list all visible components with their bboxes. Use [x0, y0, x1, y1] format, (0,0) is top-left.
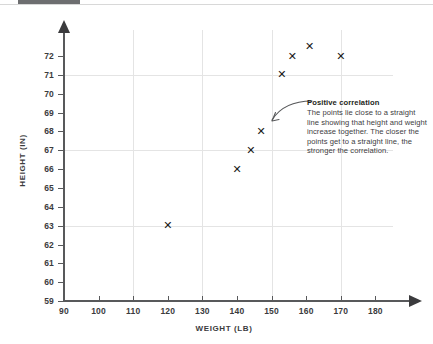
- x-axis-tick: [133, 296, 134, 302]
- y-axis-tick-label: 59: [14, 296, 54, 306]
- x-axis-arrow-icon: [409, 295, 422, 307]
- y-axis-tick: [58, 150, 64, 151]
- y-axis-tick: [58, 75, 64, 76]
- x-axis-tick: [375, 296, 376, 302]
- y-axis-tick-label: 61: [14, 258, 54, 268]
- x-axis-tick: [168, 296, 169, 302]
- y-axis-tick-label: 63: [14, 221, 54, 231]
- y-axis-tick-label: 62: [14, 240, 54, 250]
- y-axis-tick-label: 64: [14, 202, 54, 212]
- y-axis-tick: [58, 113, 64, 114]
- data-point-marker: ✕: [162, 220, 173, 231]
- x-axis-tick-label: 180: [355, 306, 395, 316]
- gridline-vertical: [341, 30, 342, 301]
- x-axis-tick: [341, 296, 342, 302]
- data-point-marker: ✕: [245, 145, 256, 156]
- annotation-callout: Positive correlation The points lie clos…: [307, 98, 429, 156]
- data-point-marker: ✕: [276, 69, 287, 80]
- x-axis-tick: [272, 296, 273, 302]
- x-axis-tick: [202, 296, 203, 302]
- annotation-body: The points lie close to a straight line …: [307, 108, 429, 156]
- y-axis-tick: [58, 226, 64, 227]
- gridline-vertical: [133, 30, 134, 301]
- y-axis-arrow-icon: [58, 20, 70, 33]
- gridline-horizontal: [64, 75, 393, 76]
- x-axis-tick: [64, 296, 65, 302]
- y-axis-tick: [58, 207, 64, 208]
- gridline-vertical: [272, 30, 273, 301]
- gridline-horizontal: [64, 226, 393, 227]
- data-point-marker: ✕: [287, 51, 298, 62]
- y-axis-tick: [58, 131, 64, 132]
- y-axis-tick: [58, 94, 64, 95]
- y-axis-tick-label: 69: [14, 108, 54, 118]
- annotation-title: Positive correlation: [307, 98, 429, 107]
- y-axis-line: [63, 32, 65, 302]
- header-rule: [0, 4, 433, 5]
- y-axis-title: HEIGHT (IN): [18, 121, 27, 201]
- scatter-plot-figure: 7271706968676665646362616059 90100110120…: [0, 6, 433, 344]
- gridline-vertical: [202, 30, 203, 301]
- x-axis-tick: [99, 296, 100, 302]
- x-axis-title: WEIGHT (LB): [64, 324, 384, 333]
- y-axis-tick-label: 72: [14, 51, 54, 61]
- y-axis-tick: [58, 169, 64, 170]
- y-axis-tick: [58, 245, 64, 246]
- x-axis-tick: [237, 296, 238, 302]
- plot-area: [64, 50, 384, 301]
- y-axis-tick: [58, 56, 64, 57]
- data-point-marker: ✕: [232, 164, 243, 175]
- y-axis-tick-label: 70: [14, 89, 54, 99]
- y-axis-tick: [58, 188, 64, 189]
- y-axis-tick-label: 71: [14, 70, 54, 80]
- annotation-leader-line: [258, 98, 314, 132]
- data-point-marker: ✕: [335, 51, 346, 62]
- data-point-marker: ✕: [304, 41, 315, 52]
- y-axis-tick: [58, 282, 64, 283]
- y-axis-tick: [58, 263, 64, 264]
- x-axis-tick: [306, 296, 307, 302]
- y-axis-tick-label: 60: [14, 277, 54, 287]
